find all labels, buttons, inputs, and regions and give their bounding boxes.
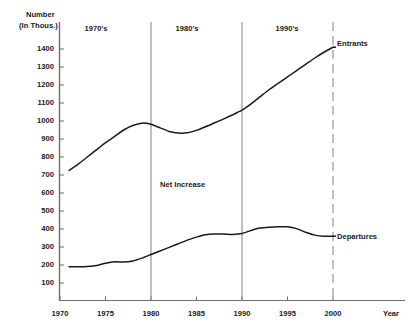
era-label-1980s: 1980's [157,24,217,33]
y-tick-label: 1400 [24,44,54,53]
era-label-1990s: 1990's [257,24,317,33]
y-axis-title-line1: Number [26,10,55,19]
x-tick-label: 1970 [43,309,77,318]
annotation-net-increase: Net Increase [160,180,205,189]
y-tick-label: 100 [24,278,54,287]
x-tick-label: 1975 [89,309,123,318]
x-tick-label: 1990 [225,309,259,318]
y-tick-label: 400 [24,224,54,233]
y-tick-label: 700 [24,170,54,179]
y-tick-label: 900 [24,134,54,143]
y-tick-label: 300 [24,242,54,251]
series-group [69,47,336,267]
x-axis-title: Year [383,309,399,318]
y-tick-label: 800 [24,152,54,161]
axes-group [60,22,406,301]
y-tick-label: 200 [24,260,54,269]
y-tick-label: 1000 [24,116,54,125]
chart-plot-area [0,0,413,336]
series-line-departures [69,227,333,267]
series-label-departures: Departures [337,232,377,241]
x-tick-label: 2000 [316,309,350,318]
chart-container: Number (In Thous.) Year 1970's 1980's 19… [0,0,413,336]
y-tick-label: 1300 [24,62,54,71]
y-tick-label: 600 [24,188,54,197]
era-label-1970s: 1970's [66,24,126,33]
y-axis-title-line2: (In Thous.) [19,21,58,30]
y-tick-label: 500 [24,206,54,215]
y-tick-label: 1200 [24,80,54,89]
x-tick-label: 1985 [180,309,214,318]
y-tick-label: 1100 [24,98,54,107]
series-line-entrants [69,47,333,170]
x-tick-label: 1995 [271,309,305,318]
x-tick-label: 1980 [134,309,168,318]
series-label-entrants: Entrants [337,39,368,48]
